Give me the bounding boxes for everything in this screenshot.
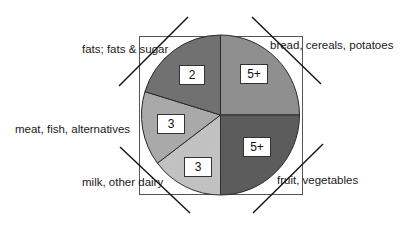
label-meat-fish-alternatives: meat, fish, alternatives	[15, 124, 130, 136]
label-bread-cereals-potatoes: bread, cereals, potatoes	[270, 40, 393, 52]
value-box-meat: 3	[157, 114, 185, 134]
label-milk-other-dairy: milk, other dairy	[82, 177, 163, 189]
value-box-bread: 5+	[240, 64, 268, 84]
label-fats-sugar: fats; fats & sugar	[82, 44, 168, 56]
value-box-fats: 2	[179, 65, 205, 85]
value-box-fruit: 5+	[243, 137, 271, 157]
pie-chart	[0, 0, 411, 232]
value-box-milk: 3	[184, 157, 212, 177]
label-fruit-vegetables: fruit, vegetables	[277, 175, 358, 187]
